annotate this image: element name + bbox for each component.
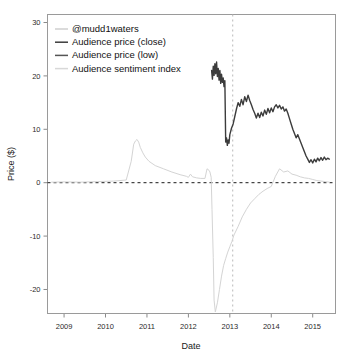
x-axis-ticks: 2009201020112012201320142015 [56, 314, 321, 331]
series-line-3 [52, 139, 330, 311]
y-axis-ticks: -20-100102030 [30, 18, 48, 294]
y-tick-label: 0 [36, 178, 40, 187]
x-tick-label: 2014 [263, 322, 280, 331]
x-tick-label: 2009 [56, 322, 73, 331]
x-tick-label: 2013 [221, 322, 238, 331]
y-tick-label: 30 [32, 18, 40, 27]
series-line-1 [212, 62, 330, 163]
y-tick-label: -10 [30, 232, 41, 241]
x-tick-label: 2015 [304, 322, 321, 331]
chart-container: -20-100102030 20092010201120122013201420… [0, 0, 352, 358]
chart-svg: -20-100102030 20092010201120122013201420… [0, 0, 352, 358]
y-tick-label: 20 [32, 72, 40, 81]
x-axis-title: Date [181, 341, 200, 351]
chart-legend: @mudd1watersAudience price (close)Audien… [55, 23, 181, 74]
series-paths [52, 62, 330, 312]
y-tick-label: 10 [32, 125, 40, 134]
legend-label-0: @mudd1waters [72, 23, 139, 34]
legend-label-2: Audience price (low) [72, 49, 158, 60]
x-tick-label: 2011 [139, 322, 155, 331]
y-tick-label: -20 [30, 285, 41, 294]
x-tick-label: 2010 [97, 322, 114, 331]
legend-label-3: Audience sentiment index [72, 63, 181, 74]
y-axis-title: Price ($) [6, 147, 16, 181]
legend-label-1: Audience price (close) [72, 36, 166, 47]
x-tick-label: 2012 [180, 322, 197, 331]
